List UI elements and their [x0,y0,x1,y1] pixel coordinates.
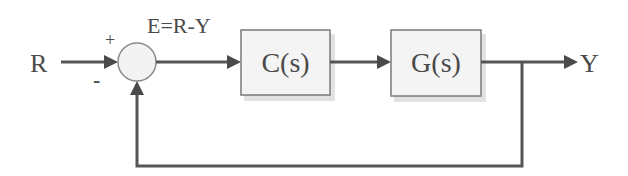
plant-label: G(s) [411,47,461,78]
plus-sign: + [105,30,115,50]
output-arrow [481,55,578,69]
arrowhead-icon [104,55,118,69]
input-label-r: R [30,49,48,78]
arrowhead-icon [130,81,144,95]
arrowhead-icon [227,55,241,69]
control-signal-arrow [330,55,391,69]
arrowhead-icon [377,55,391,69]
block-diagram: R + - E=R-Y C(s) G(s) Y [0,0,628,176]
error-arrow [156,55,241,69]
minus-sign: - [93,67,100,92]
summing-junction [118,43,156,81]
plant-block: G(s) [391,30,486,102]
input-arrow [61,55,118,69]
arrowhead-icon [564,55,578,69]
controller-label: C(s) [261,47,309,78]
output-label-y: Y [580,49,599,78]
error-label: E=R-Y [147,13,211,38]
controller-block: C(s) [241,30,335,101]
